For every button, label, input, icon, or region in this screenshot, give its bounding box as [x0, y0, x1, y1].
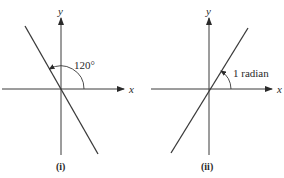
y-axis-label: y — [205, 5, 211, 17]
diagram-i: y x 120° (i) — [2, 5, 134, 173]
y-axis-label: y — [57, 5, 63, 17]
figure-canvas: y x 120° (i) y x 1 radian (ii) — [0, 0, 284, 178]
x-axis-label: x — [276, 83, 282, 95]
diagram-ii: y x 1 radian (ii) — [151, 5, 282, 173]
caption-i: (i) — [56, 161, 65, 173]
angle-label: 120° — [74, 59, 95, 71]
angle-arc — [221, 71, 231, 89]
angle-label: 1 radian — [233, 67, 269, 79]
x-axis-label: x — [128, 83, 134, 95]
caption-ii: (ii) — [201, 161, 213, 173]
